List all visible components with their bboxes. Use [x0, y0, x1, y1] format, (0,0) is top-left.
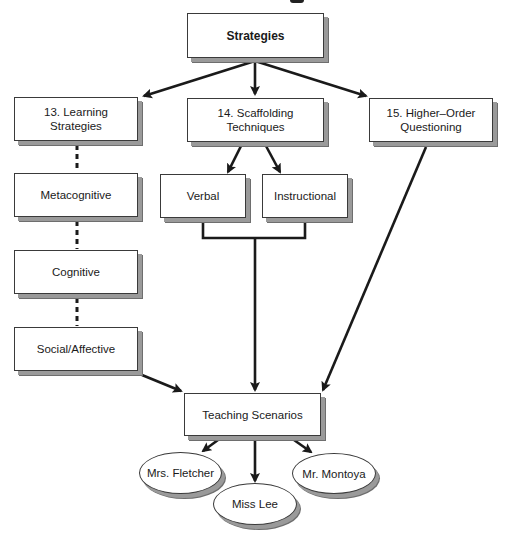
scenario-label: Miss Lee	[232, 498, 278, 510]
node-label: Social/Affective	[37, 342, 115, 356]
arrow-14-to-verbal	[228, 146, 241, 172]
node-label: Instructional	[274, 189, 336, 203]
scenario-miss-lee: Miss Lee	[213, 483, 297, 525]
arrow-root-to-15	[255, 61, 366, 96]
arrow-scenarios-to-fletcher	[203, 440, 218, 451]
node-label: Teaching Scenarios	[202, 408, 302, 422]
node-social-affective: Social/Affective	[14, 327, 138, 371]
node-teaching-scenarios: Teaching Scenarios	[184, 393, 321, 436]
arrow-scenarios-to-montoya	[294, 440, 311, 452]
scenario-mr-montoya: Mr. Montoya	[292, 453, 376, 494]
node-label: 15. Higher–Order Questioning	[387, 106, 476, 134]
node-metacognitive: Metacognitive	[14, 173, 138, 217]
bracket-verbal-instructional	[203, 223, 305, 238]
scenario-mrs-fletcher: Mrs. Fletcher	[139, 452, 222, 494]
node-label: Metacognitive	[41, 188, 112, 202]
node-label: Verbal	[187, 189, 220, 203]
scenario-label: Mr. Montoya	[302, 468, 365, 480]
arrow-social-to-scenarios	[142, 375, 181, 391]
node-learning-strategies: 13. Learning Strategies	[14, 97, 138, 141]
node-scaffolding-techniques: 14. Scaffolding Techniques	[187, 98, 324, 142]
node-verbal: Verbal	[160, 174, 246, 218]
root-node-strategies: Strategies	[187, 13, 324, 58]
scenario-label: Mrs. Fletcher	[147, 467, 214, 479]
arrow-root-to-13	[144, 61, 255, 96]
node-label: Cognitive	[52, 265, 100, 279]
node-higher-order-questioning: 15. Higher–Order Questioning	[369, 98, 493, 142]
node-label: 14. Scaffolding Techniques	[218, 106, 294, 134]
root-label: Strategies	[226, 29, 284, 43]
node-label: 13. Learning Strategies	[44, 105, 108, 133]
node-instructional: Instructional	[262, 174, 348, 218]
arrow-14-to-instructional	[266, 146, 280, 172]
node-cognitive: Cognitive	[14, 250, 138, 294]
